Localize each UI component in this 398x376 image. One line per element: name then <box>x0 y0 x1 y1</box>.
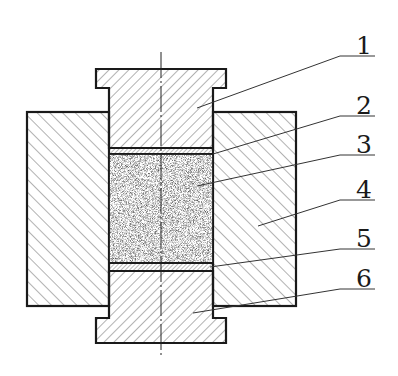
label-6: 6 <box>356 264 372 293</box>
label-3: 3 <box>356 130 372 159</box>
die-left-block <box>27 112 109 306</box>
part-labels: 1 2 3 4 5 6 <box>356 31 372 293</box>
label-1: 1 <box>356 31 372 60</box>
mold-cross-section-diagram: 1 2 3 4 5 6 <box>0 0 398 376</box>
label-2: 2 <box>356 91 372 120</box>
label-5: 5 <box>356 224 372 253</box>
label-4: 4 <box>356 175 372 204</box>
